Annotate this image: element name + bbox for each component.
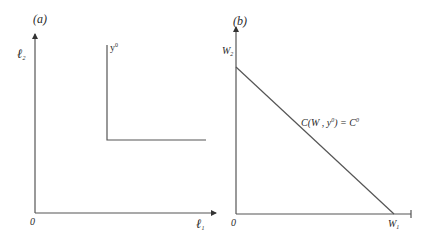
- isocost-label-mid: ) = C: [334, 117, 356, 128]
- panel-b-x-axis-label: W1: [388, 218, 399, 233]
- panel-a-axes: [35, 34, 216, 213]
- panel-b-isocost-line: [236, 67, 394, 214]
- panel-a-isoquant: [107, 45, 206, 140]
- panel-b-y-axis-label: W2: [222, 45, 233, 60]
- panel-a-x-axis-label: ℓ1: [196, 218, 204, 234]
- panel-a-title: (a): [33, 13, 47, 25]
- panel-a-y-axis-label: ℓ2: [17, 48, 25, 64]
- panel-a-x-axis-subscript: 1: [201, 225, 204, 231]
- panel-b-y-axis-subscript: 2: [230, 51, 233, 57]
- panel-b-origin-label: 0: [231, 217, 236, 228]
- isocost-label-sup-2: 0: [356, 117, 359, 123]
- panel-a-origin-label: 0: [30, 216, 35, 227]
- isocost-label-prefix: C(W , y: [301, 117, 331, 128]
- panel-a-isoquant-label: y0: [110, 40, 118, 53]
- panel-a-y-axis-subscript: 2: [22, 55, 25, 61]
- panel-a-isoquant-superscript: 0: [115, 42, 118, 48]
- panel-b-isocost-label: C(W , y0) = C0: [301, 115, 359, 128]
- diagram-canvas: [0, 0, 427, 241]
- panel-b-title: (b): [233, 15, 247, 27]
- panel-b-x-axis-subscript: 1: [396, 224, 399, 230]
